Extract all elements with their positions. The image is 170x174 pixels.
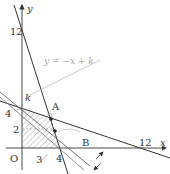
x-axis-label: x [160,137,166,148]
motion-arrow [96,152,103,159]
point-B [53,129,57,133]
x-tick-3: 3 [36,154,42,165]
y-tick-2: 2 [13,124,19,135]
y-axis-label: y [26,3,33,14]
x-tick-12: 12 [139,137,152,148]
k-label: k [25,92,31,103]
y-tick-12: 12 [10,26,23,37]
motion-arrow-2 [94,163,101,170]
y-tick-4: 4 [5,108,11,119]
equation-label: y = −x + k [43,56,94,66]
point-B-label: B [82,137,89,148]
x-tick-4: 4 [56,153,62,164]
leader-B [58,129,80,132]
origin-label: O [10,153,18,164]
point-A-label: A [51,101,60,112]
diagram-canvas: y x O 12 4 2 3 4 12 k A B y = −x + k [0,0,170,174]
